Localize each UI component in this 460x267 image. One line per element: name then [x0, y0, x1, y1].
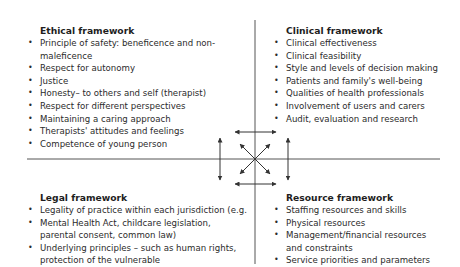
list-item: Staffing resources and skills — [273, 204, 430, 217]
clinical-framework-quadrant: Clinical framework Clinical effectivenes… — [273, 24, 438, 125]
list-item-continuation: and constraints — [273, 242, 430, 255]
resource-framework-quadrant: Resource framework Staffing resources an… — [273, 191, 430, 267]
legal-framework-quadrant: Legal framework Legality of practice wit… — [27, 191, 247, 267]
list-item: Audit, evaluation and research — [273, 113, 438, 126]
quadrant-list: Legality of practice within each jurisdi… — [27, 204, 247, 267]
quadrant-title: Clinical framework — [286, 24, 438, 37]
list-item: Service priorities and parameters — [273, 254, 430, 267]
list-item: Clinical effectiveness — [273, 37, 438, 50]
list-item: Respect for different perspectives — [27, 100, 215, 113]
list-item-continuation: maleficence — [27, 50, 215, 63]
list-item-continuation: protection of the vulnerable — [27, 254, 247, 267]
list-item: Respect for autonomy — [27, 62, 215, 75]
list-item: Clinical feasibility — [273, 50, 438, 63]
list-item: Competence of young person — [27, 138, 215, 151]
list-item: Underlying principles – such as human ri… — [27, 242, 247, 255]
list-item: Honesty– to others and self (therapist) — [27, 87, 215, 100]
list-item: Justice — [27, 75, 215, 88]
list-item: Therapists' attitudes and feelings — [27, 125, 215, 138]
list-item: Involvement of users and carers — [273, 100, 438, 113]
quadrant-title: Resource framework — [286, 191, 430, 204]
list-item: Management/financial resources — [273, 229, 430, 242]
quadrant-list: Clinical effectiveness Clinical feasibil… — [273, 37, 438, 125]
quadrant-title: Legal framework — [40, 191, 247, 204]
list-item: Principle of safety: beneficence and non… — [27, 37, 215, 50]
ethical-framework-quadrant: Ethical framework Principle of safety: b… — [27, 24, 215, 150]
quadrant-title: Ethical framework — [40, 24, 215, 37]
list-item: Patients and family's well-being — [273, 75, 438, 88]
list-item: Legality of practice within each jurisdi… — [27, 204, 247, 217]
quadrant-list: Principle of safety: beneficence and non… — [27, 37, 215, 150]
list-item: Physical resources — [273, 217, 430, 230]
quadrant-list: Staffing resources and skills Physical r… — [273, 204, 430, 267]
list-item: Mental Health Act, childcare legislation… — [27, 217, 247, 230]
list-item: Maintaining a caring approach — [27, 113, 215, 126]
list-item: Qualities of health professionals — [273, 87, 438, 100]
list-item-continuation: parental consent, common law) — [27, 229, 247, 242]
list-item: Style and levels of decision making — [273, 62, 438, 75]
